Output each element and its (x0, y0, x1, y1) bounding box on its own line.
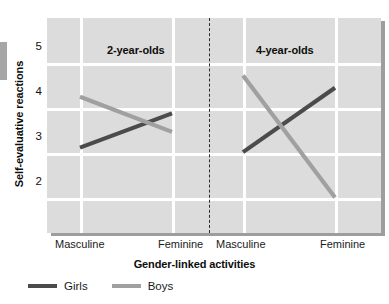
page-edge-marker (0, 42, 7, 80)
y-tick-3: 3 (28, 130, 42, 142)
series-layer (47, 18, 381, 233)
x-tick-masculine-2: Masculine (216, 238, 266, 250)
legend-item-girls: Girls (28, 280, 88, 292)
y-tick-4: 4 (28, 85, 42, 97)
chart-legend: Girls Boys (28, 280, 173, 292)
y-tick-2: 2 (28, 175, 42, 187)
y-axis-title: Self-evaluative reactions (13, 44, 25, 204)
y-tick-5: 5 (28, 40, 42, 52)
chart-figure: 2-year-olds 4-year-olds 5 4 3 2 Self-eva… (0, 0, 389, 304)
line-girls-panel-2yo (80, 113, 172, 147)
x-tick-feminine-2: Feminine (320, 238, 365, 250)
legend-item-boys: Boys (112, 280, 174, 292)
x-axis-title: Gender-linked activities (0, 258, 389, 270)
legend-swatch-girls-icon (28, 284, 57, 288)
line-boys-panel-4yo (243, 76, 335, 198)
legend-swatch-boys-icon (112, 284, 141, 288)
legend-label-girls: Girls (64, 280, 88, 292)
panel-title-4-year-olds: 4-year-olds (256, 44, 314, 56)
x-tick-masculine-1: Masculine (55, 238, 105, 250)
panel-title-2-year-olds: 2-year-olds (107, 44, 165, 56)
line-boys-panel-2yo (80, 97, 172, 132)
x-tick-feminine-1: Feminine (158, 238, 203, 250)
legend-label-boys: Boys (148, 280, 174, 292)
line-girls-panel-4yo (243, 88, 335, 152)
plot-area: 2-year-olds 4-year-olds (47, 18, 381, 233)
